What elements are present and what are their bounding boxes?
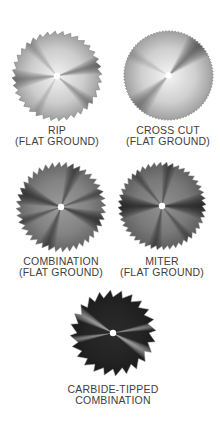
carbide-tipped-blade-image [59,279,167,387]
caption-line-2: COMBINATION [68,395,159,406]
rip-blade-image [4,23,110,129]
rip-blade-caption: RIP (FLAT GROUND) [15,125,99,147]
miter-blade-caption: MITER (FLAT GROUND) [120,256,204,278]
combination-blade-caption: COMBINATION (FLAT GROUND) [19,256,103,278]
miter-blade-image [110,154,214,258]
saw-blade-icon [7,153,115,261]
cross-cut-blade-caption: CROSS CUT (FLAT GROUND) [126,125,210,147]
caption-line-2: (FLAT GROUND) [120,267,204,278]
caption-line-2: (FLAT GROUND) [126,136,210,147]
caption-line-2: (FLAT GROUND) [15,136,99,147]
arbor-hole [165,72,171,78]
saw-blade-icon [110,154,214,258]
saw-blade-icon [4,23,110,129]
saw-blade-icon [59,279,167,387]
arbor-hole [54,73,60,79]
carbide-tipped-blade-caption: CARBIDE-TIPPED COMBINATION [68,384,159,406]
saw-blade-icon [118,25,219,126]
arbor-hole [159,203,165,209]
cross-cut-blade-image [118,25,219,126]
arbor-hole [110,330,116,336]
arbor-hole [58,204,64,210]
caption-line-2: (FLAT GROUND) [19,267,103,278]
combination-blade-image [7,153,115,261]
